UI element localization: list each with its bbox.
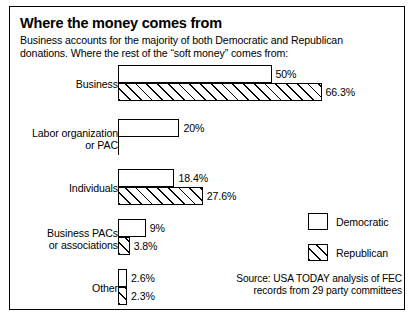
bar-democratic: 18.4% (118, 169, 398, 187)
bar-rect-republican (118, 237, 130, 255)
baseline-tick (118, 119, 119, 155)
bar-category-label: Business (0, 78, 118, 90)
bar-category-label: Individuals (0, 182, 118, 194)
bar-value-democratic: 2.6% (131, 272, 155, 284)
bar-value-republican: 3.8% (134, 240, 158, 252)
bar-value-republican: 2.3% (131, 290, 155, 302)
bar-category-label: Other (0, 282, 118, 294)
bar-rect-democratic (118, 65, 272, 83)
bar-rect-democratic (118, 269, 127, 287)
bar-value-democratic: 18.4% (178, 172, 208, 184)
bar-rect-republican (118, 287, 127, 305)
legend-swatch-republican-icon (308, 244, 328, 261)
bar-value-democratic: 50% (276, 68, 297, 80)
chart-subtitle: Business accounts for the majority of bo… (20, 34, 392, 59)
bar-republican: 66.3% (118, 83, 398, 101)
page-title: Where the money comes from (20, 15, 222, 31)
bar-rect-republican (118, 83, 322, 101)
legend-swatch-democratic-icon (308, 213, 328, 230)
source-note: Source: USA TODAY analysis of FEC record… (228, 273, 402, 297)
bar-category-label: Business PACs or associations (0, 227, 118, 252)
bar-democratic: 50% (118, 65, 398, 83)
bar-value-republican: 27.6% (207, 190, 237, 202)
legend-item-democratic: Democratic (308, 213, 389, 230)
bar-value-democratic: 20% (183, 122, 204, 134)
bar-democratic: 20% (118, 119, 398, 137)
bar-rect-democratic (118, 119, 179, 137)
chart-panel: Where the money comes from Business acco… (9, 6, 405, 310)
legend-label-democratic: Democratic (336, 216, 389, 228)
bar-republican: 27.6% (118, 187, 398, 205)
bar-value-republican: 66.3% (326, 86, 356, 98)
bar-rect-democratic (118, 169, 174, 187)
legend-label-republican: Republican (336, 247, 388, 259)
bar-value-democratic: 9% (150, 222, 165, 234)
bar-rect-republican (118, 187, 203, 205)
bar-rect-democratic (118, 219, 146, 237)
bar-category-label: Labor organization or PAC (0, 127, 118, 152)
legend-item-republican: Republican (308, 244, 388, 261)
